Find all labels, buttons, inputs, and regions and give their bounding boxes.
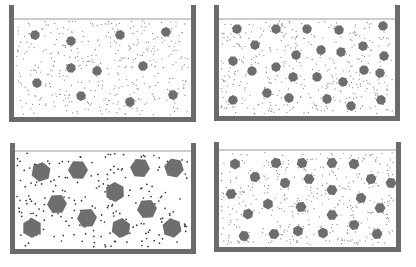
particle <box>161 27 171 37</box>
particle <box>137 200 157 218</box>
container-right-wall <box>191 5 196 122</box>
particle <box>323 94 333 104</box>
particle <box>346 101 356 111</box>
particle <box>76 91 86 101</box>
particle <box>247 66 257 76</box>
particle <box>269 229 280 239</box>
particle <box>92 66 102 76</box>
container-bottom <box>9 117 196 122</box>
particle <box>232 24 242 34</box>
beaker-top-left <box>9 5 196 122</box>
container-left-wall <box>214 142 219 252</box>
particle <box>262 88 272 98</box>
particle <box>297 158 308 169</box>
particle <box>349 159 360 170</box>
particle <box>327 210 338 220</box>
particle <box>334 26 344 36</box>
particle <box>77 209 97 227</box>
particle <box>376 95 386 105</box>
particle <box>291 50 301 60</box>
particle <box>378 21 388 31</box>
particle <box>375 68 385 78</box>
particle <box>359 65 369 75</box>
particle <box>304 174 315 184</box>
container-bottom <box>10 249 196 254</box>
solute-particles <box>23 159 184 239</box>
container-left-wall <box>10 143 15 254</box>
particle <box>280 178 291 189</box>
particle <box>271 62 281 72</box>
particle <box>316 45 326 55</box>
particle <box>356 193 367 204</box>
particle <box>296 202 307 212</box>
particle <box>115 30 125 40</box>
particle <box>271 25 281 35</box>
particle <box>293 226 303 237</box>
solution-diagram <box>0 0 416 267</box>
particle <box>168 90 178 100</box>
particle <box>112 218 130 238</box>
particle <box>66 63 76 73</box>
particle <box>302 24 312 34</box>
particle <box>318 228 328 239</box>
container-left-wall <box>214 5 219 121</box>
particle <box>386 178 397 188</box>
particle <box>32 78 42 88</box>
container-bottom <box>214 247 401 252</box>
particle <box>327 158 338 168</box>
particle <box>288 72 298 82</box>
particle <box>23 218 40 238</box>
particle <box>250 172 261 183</box>
beaker-bottom-left <box>10 143 196 254</box>
particle <box>284 93 294 103</box>
particle <box>230 159 240 170</box>
particle <box>358 41 368 51</box>
container-right-wall <box>191 143 196 254</box>
particle <box>338 77 348 87</box>
container-bottom <box>214 116 400 121</box>
particle <box>130 159 150 177</box>
particle <box>263 199 273 210</box>
particle <box>379 51 389 61</box>
particle <box>366 174 377 184</box>
particle <box>163 218 182 238</box>
particle <box>239 231 250 241</box>
particle <box>228 56 238 66</box>
particle <box>312 72 322 82</box>
particle <box>138 61 148 71</box>
particle <box>106 182 124 202</box>
particle <box>250 40 260 50</box>
particle <box>372 229 383 239</box>
container-left-wall <box>9 5 14 122</box>
particle <box>226 189 237 199</box>
particle <box>66 36 76 46</box>
beaker-top-right <box>214 5 400 121</box>
container-right-wall <box>395 5 400 121</box>
particle <box>327 185 338 195</box>
solute-particles <box>228 21 389 111</box>
particle <box>228 95 238 105</box>
particle <box>271 158 282 169</box>
container-right-wall <box>396 142 401 252</box>
beaker-bottom-right <box>214 142 401 252</box>
particle <box>68 161 88 178</box>
particle <box>375 203 386 213</box>
particle <box>243 209 253 220</box>
solute-particles <box>226 158 397 241</box>
